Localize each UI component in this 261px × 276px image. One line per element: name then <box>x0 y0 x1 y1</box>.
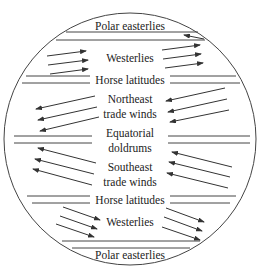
label-ne-trade-line2: trade winds <box>103 108 157 120</box>
label-equatorial-line1: Equatorial <box>106 127 154 140</box>
label-polar-easterlies-north: Polar easterlies <box>95 20 165 32</box>
label-horse-latitudes-south: Horse latitudes <box>95 194 165 206</box>
label-se-trade-line2: trade winds <box>103 176 157 188</box>
label-horse-latitudes-north: Horse latitudes <box>95 74 165 86</box>
label-westerlies-north: Westerlies <box>106 52 154 64</box>
label-polar-easterlies-south: Polar easterlies <box>95 249 165 261</box>
label-equatorial-line2: doldrums <box>108 142 152 154</box>
label-ne-trade-line1: Northeast <box>108 93 154 105</box>
label-westerlies-south: Westerlies <box>106 216 154 228</box>
wind-belts-diagram: Polar easterlies Westerlies Horse latitu… <box>0 0 261 276</box>
label-se-trade-line1: Southeast <box>108 161 154 173</box>
